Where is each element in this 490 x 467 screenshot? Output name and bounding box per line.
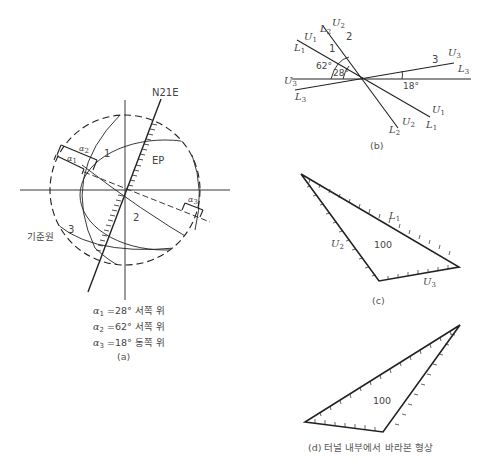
- label-u3-left: U3: [284, 76, 297, 88]
- alpha3-label: α3: [188, 196, 198, 206]
- label-u1-top: U1: [304, 32, 317, 44]
- eq1-text: =28° 서쪽 위: [107, 305, 165, 316]
- label-u1-bottom: U1: [432, 105, 445, 117]
- equation-alpha1: α1 =28° 서쪽 위: [93, 303, 165, 318]
- region-b-3: 3: [432, 55, 438, 65]
- angle-18: 18°: [403, 82, 419, 91]
- great-circle-right-arc: [192, 155, 199, 230]
- great-circle-2: [82, 165, 200, 245]
- eq3-sub: 3: [99, 342, 103, 350]
- equation-alpha3: α3 =18° 동쪽 위: [93, 335, 165, 350]
- figure-c-triangle: [301, 174, 459, 281]
- edge-label-l1: L1: [389, 211, 400, 223]
- caption-b: (b): [370, 140, 383, 151]
- edge-label-u3: U3: [423, 277, 436, 289]
- reference-circle-label: 기준원: [27, 232, 54, 242]
- label-u2-top: U2: [332, 18, 345, 30]
- angle-62: 62°: [316, 62, 332, 71]
- arc-18: [402, 71, 403, 79]
- figure-d-triangle: [305, 325, 460, 432]
- eq1-sub: 1: [99, 310, 103, 318]
- figure-c-hatching: [307, 179, 450, 280]
- equation-alpha2: α2 =62° 서쪽 위: [93, 319, 165, 334]
- alpha2-label: α2: [79, 145, 89, 155]
- caption-d: (d) 터널 내부에서 바라본 형상: [308, 440, 433, 454]
- label-l1-bottom: L1: [426, 120, 437, 132]
- caption-c: (c): [372, 295, 385, 306]
- figure-d-hatching: [315, 331, 455, 431]
- angle-28: 28°: [333, 69, 349, 78]
- caption-a: (a): [117, 351, 130, 362]
- label-l2-bottom: L2: [389, 125, 400, 137]
- region-label-1: 1: [104, 149, 110, 159]
- eq2-text: =62° 서쪽 위: [107, 321, 165, 332]
- figure-a-stereonet: [20, 99, 250, 300]
- eq3-text: =18° 동쪽 위: [107, 337, 165, 348]
- edge-label-u2: U2: [331, 239, 344, 251]
- n21e-strike-line: [88, 99, 161, 292]
- eq2-sub: 2: [99, 326, 103, 334]
- label-u3-right: U3: [448, 48, 461, 60]
- label-l2-top: L2: [320, 24, 331, 36]
- region-label-3: 3: [68, 225, 74, 235]
- region-label-2: 2: [133, 213, 139, 223]
- label-u2-bottom: U2: [402, 117, 415, 129]
- alpha1-label: α1: [67, 155, 77, 165]
- region-b-2: 2: [346, 32, 352, 42]
- label-l1-top: L1: [294, 43, 305, 55]
- great-circle-1: [82, 115, 120, 266]
- ep-label: EP: [152, 156, 164, 166]
- strike-label: N21E: [152, 88, 179, 98]
- small-arc-3: [58, 225, 200, 250]
- value-d: 100: [373, 396, 391, 406]
- label-l3-right: L3: [458, 64, 469, 76]
- value-c: 100: [374, 240, 392, 250]
- ep-hatching: [96, 124, 157, 251]
- label-l3-left: L3: [295, 92, 306, 104]
- region-b-1: 1: [329, 44, 335, 54]
